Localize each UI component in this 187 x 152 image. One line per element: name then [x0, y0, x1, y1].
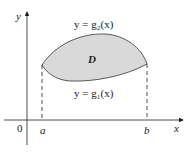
lower-curve-label: y = g₁(x): [74, 87, 114, 100]
region-label: D: [87, 53, 96, 65]
diagram-canvas: y = g₂(x) y = g₁(x) D y x 0 a b: [0, 0, 187, 152]
upper-curve-label: y = g₂(x): [74, 18, 114, 31]
y-axis-label: y: [15, 10, 21, 22]
x-axis-label: x: [173, 122, 179, 134]
origin-label: 0: [17, 122, 23, 134]
left-bound-label: a: [40, 124, 46, 136]
right-bound-label: b: [144, 124, 150, 136]
region-diagram: y = g₂(x) y = g₁(x) D y x 0 a b: [0, 0, 187, 152]
